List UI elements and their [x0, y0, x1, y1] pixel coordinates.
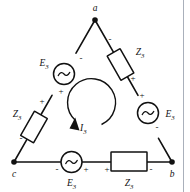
wire-left-source-to-a: [76, 20, 95, 53]
branch-cb: E3 - + Z3 + -: [14, 152, 172, 190]
node-b: b: [169, 159, 175, 179]
mesh-current-arrowhead-icon: [70, 118, 80, 131]
node-a-label: a: [93, 3, 98, 13]
node-b-dot: [169, 159, 175, 165]
voltage-source-e3-right-minus-sign: -: [156, 122, 159, 132]
voltage-source-e3-right-label: E3: [164, 109, 175, 121]
branch-ab: Z3 - + E3 + -: [95, 20, 175, 162]
impedance-z3-right-plus-sign: +: [130, 73, 135, 83]
mesh-current-arc: [68, 79, 116, 125]
voltage-source-e3-bottom-minus-sign: -: [56, 164, 59, 174]
impedance-z3-left-minus-sign: -: [20, 133, 23, 143]
impedance-z3-bottom-body[interactable]: [111, 152, 147, 171]
node-c-label: c: [12, 169, 17, 179]
voltage-source-e3-right-plus-sign: +: [139, 90, 144, 100]
impedance-z3-left-label-sub: 3: [17, 114, 22, 121]
voltage-source-e3-left-minus-sign: -: [80, 53, 83, 63]
impedance-z3-bottom-minus-sign: -: [150, 164, 153, 174]
voltage-source-e3-bottom-label: E3: [66, 178, 77, 190]
wire-right-source-to-b: [159, 138, 173, 162]
voltage-source-e3-left-plus-sign: +: [58, 86, 63, 96]
impedance-z3-bottom-label: Z3: [125, 178, 134, 190]
impedance-z3-left[interactable]: [21, 111, 48, 143]
node-a: a: [92, 3, 98, 23]
mesh-current-label-sub: 3: [82, 128, 87, 135]
impedance-z3-bottom-plus-sign: +: [104, 164, 109, 174]
mesh-current-label: I3: [79, 123, 87, 135]
impedance-z3-bottom-label-sub: 3: [129, 183, 134, 190]
node-b-label: b: [170, 169, 175, 179]
mesh-current-loop: I3: [68, 79, 116, 135]
voltage-source-e3-left-label: E3: [38, 58, 49, 70]
impedance-z3-left-label: Z3: [13, 109, 22, 121]
voltage-source-e3-right[interactable]: [138, 103, 159, 124]
node-a-dot: [92, 17, 98, 23]
impedance-z3-right-label: Z3: [136, 47, 145, 59]
impedance-z3-right-minus-sign: -: [109, 34, 112, 44]
voltage-source-e3-right-label-sub: 3: [170, 114, 175, 121]
node-c: c: [11, 159, 17, 179]
node-c-dot: [11, 159, 17, 165]
impedance-z3-left-plus-sign: +: [39, 96, 44, 106]
voltage-source-e3-bottom-plus-sign: +: [83, 164, 88, 174]
voltage-source-e3-left-label-sub: 3: [44, 63, 49, 70]
circuit-diagram-figure: Z3 + - E3 - + Z3: [0, 0, 190, 192]
impedance-z3-left-body: [21, 111, 48, 143]
voltage-source-e3-bottom[interactable]: [61, 152, 82, 173]
voltage-source-e3-left[interactable]: [54, 64, 75, 85]
voltage-source-e3-bottom-label-sub: 3: [72, 183, 77, 190]
impedance-z3-right-label-sub: 3: [140, 52, 145, 59]
branch-ca: Z3 + - E3 - +: [13, 20, 95, 162]
